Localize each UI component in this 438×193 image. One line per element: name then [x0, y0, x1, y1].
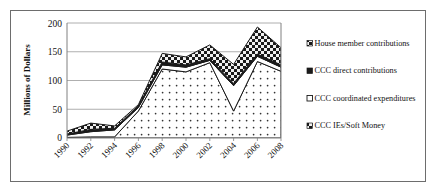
- y-tick-label: 100: [48, 76, 63, 86]
- legend-item-ccc-coordinated-expenditures[interactable]: CCC coordinated expenditures: [307, 94, 415, 103]
- x-tick-label: 1998: [147, 140, 167, 160]
- x-tick-label: 2004: [218, 140, 238, 160]
- x-tick-label: 2002: [194, 140, 214, 160]
- y-tick-labels: 200 150 100 50 0: [48, 19, 63, 144]
- legend-swatch-white-icon: [307, 96, 313, 102]
- legend-label: CCC IEs/Soft Money: [315, 121, 386, 130]
- x-tick-label: 1996: [123, 140, 143, 160]
- x-tick-label: 2008: [266, 140, 286, 160]
- legend-swatch-black-icon: [307, 68, 313, 74]
- x-tick-label: 1990: [52, 140, 72, 160]
- legend-label: CCC direct contributions: [315, 66, 397, 75]
- y-tick-label: 150: [48, 47, 63, 57]
- legend-item-house-member-contributions[interactable]: House member contributions: [307, 39, 410, 48]
- legend-item-ccc-ies-soft-money[interactable]: CCC IEs/Soft Money: [307, 121, 386, 130]
- y-axis-title: Millions of Dollars: [22, 44, 32, 116]
- y-tick-label: 200: [48, 19, 63, 29]
- legend-swatch-checker-icon: [307, 41, 313, 47]
- x-tick-label: 1994: [99, 140, 119, 160]
- legend-label: CCC coordinated expenditures: [315, 94, 416, 103]
- x-tick-labels: 1990 1992 1994 1996 1998 2000 2002 2004 …: [52, 140, 286, 160]
- x-tick-label: 1992: [75, 140, 95, 160]
- stacked-area-chart: 200 150 100 50 0 Millions of Dollars 199…: [0, 0, 438, 193]
- legend-label: House member contributions: [315, 39, 410, 48]
- legend-item-ccc-direct-contributions[interactable]: CCC direct contributions: [307, 66, 397, 75]
- legend-swatch-dotted-icon: [307, 123, 313, 129]
- y-tick-label: 50: [53, 105, 63, 115]
- chart-legend: House member contributions CCC direct co…: [307, 39, 415, 131]
- x-tick-label: 2000: [171, 140, 191, 160]
- series-layers: [67, 27, 281, 138]
- x-tick-label: 2006: [242, 140, 262, 160]
